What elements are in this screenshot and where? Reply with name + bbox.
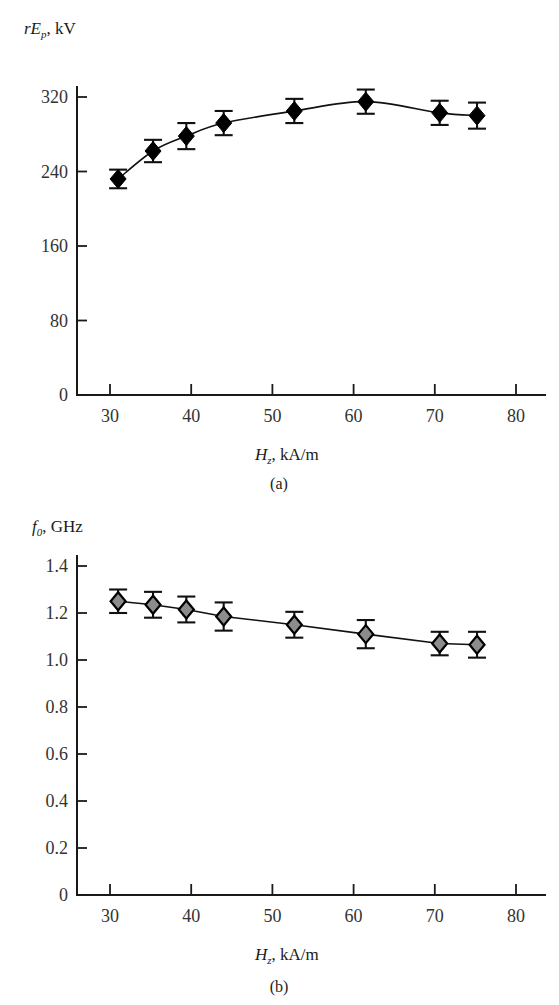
data-point-marker	[145, 142, 161, 161]
plot-a-error-bars	[109, 90, 486, 189]
x-tick-label: 30	[101, 406, 119, 426]
data-point-marker	[111, 592, 126, 610]
figure-container: 080160240320 304050607080 rEp, kV Hz, kA…	[0, 0, 559, 1005]
y-tick-label: 0	[59, 885, 68, 905]
data-point-marker	[216, 114, 232, 133]
plot-b-canvas: 00.20.40.60.81.01.21.4 304050607080 f0, …	[0, 500, 559, 1005]
plot-a-y-axis-label: rEp, kV	[24, 19, 77, 40]
data-point-marker	[469, 106, 485, 125]
plot-a-y-tick-labels: 080160240320	[41, 87, 68, 405]
x-tick-label: 70	[426, 906, 444, 926]
y-tick-label: 0.2	[46, 838, 69, 858]
data-point-marker	[146, 596, 161, 614]
x-tick-label: 60	[345, 906, 363, 926]
y-tick-label: 240	[41, 162, 68, 182]
plot-b-y-axis-label: f0, GHz	[32, 517, 83, 538]
data-point-marker	[286, 101, 302, 120]
y-tick-label: 1.0	[46, 650, 69, 670]
plot-b-caption: (b)	[270, 978, 289, 996]
x-tick-label: 40	[182, 406, 200, 426]
plot-b-x-axis-label: Hz, kA/m	[254, 945, 319, 966]
x-tick-label: 40	[182, 906, 200, 926]
data-point-marker	[432, 635, 447, 653]
chart-panel-a: 080160240320 304050607080 rEp, kV Hz, kA…	[0, 0, 559, 500]
data-point-marker	[179, 600, 194, 618]
data-point-marker	[470, 636, 485, 654]
plot-b-x-tick-labels: 304050607080	[101, 906, 525, 926]
x-tick-label: 80	[507, 906, 525, 926]
data-point-marker	[216, 608, 231, 626]
y-tick-label: 0.4	[46, 791, 69, 811]
plot-a-x-tick-labels: 304050607080	[101, 406, 525, 426]
plot-a-canvas: 080160240320 304050607080 rEp, kV Hz, kA…	[0, 0, 559, 500]
data-point-marker	[110, 169, 126, 188]
plot-a-x-axis-label: Hz, kA/m	[254, 445, 319, 466]
y-tick-label: 1.4	[46, 556, 69, 576]
x-tick-label: 80	[507, 406, 525, 426]
plot-a-data-markers	[110, 92, 485, 188]
plot-a-axes	[77, 87, 545, 395]
y-tick-label: 0.8	[46, 697, 69, 717]
plot-b-tick-marks	[77, 566, 516, 895]
y-tick-label: 0.6	[46, 744, 69, 764]
data-point-marker	[358, 92, 374, 111]
plot-a-tick-marks	[77, 97, 516, 395]
x-tick-label: 70	[426, 406, 444, 426]
y-tick-label: 160	[41, 236, 68, 256]
x-tick-label: 60	[345, 406, 363, 426]
y-tick-label: 320	[41, 87, 68, 107]
data-point-marker	[432, 103, 448, 122]
plot-a-caption: (a)	[270, 475, 288, 493]
y-tick-label: 1.2	[46, 603, 69, 623]
y-tick-label: 0	[59, 385, 68, 405]
chart-panel-b: 00.20.40.60.81.01.21.4 304050607080 f0, …	[0, 500, 559, 1005]
y-tick-label: 80	[50, 311, 68, 331]
x-tick-label: 30	[101, 906, 119, 926]
x-tick-label: 50	[263, 406, 281, 426]
data-point-marker	[287, 616, 302, 634]
data-point-marker	[178, 127, 194, 146]
plot-b-data-markers	[111, 592, 485, 653]
x-tick-label: 50	[263, 906, 281, 926]
data-point-marker	[358, 625, 373, 643]
plot-b-y-tick-labels: 00.20.40.60.81.01.21.4	[46, 556, 69, 905]
